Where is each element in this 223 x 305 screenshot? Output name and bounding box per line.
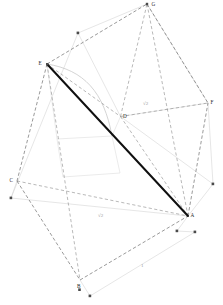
edge-D-G [121, 4, 148, 117]
edge-A-F [188, 103, 208, 216]
diagram-canvas: G E F D C A B √2 √2 1 [0, 0, 223, 305]
vertex-label-F: F [211, 100, 214, 105]
dimension-label-sqrt2-upper: √2 [143, 101, 148, 106]
vertex-label-C: C [10, 178, 13, 183]
dimension-label-sqrt2-lower: √2 [98, 213, 103, 218]
marker-left-lower [10, 197, 13, 200]
solid-edges [17, 4, 208, 280]
edge-E-C [17, 64, 47, 181]
marker-a-lower [176, 230, 179, 233]
construction-lines [11, 4, 213, 296]
point-markers [10, 3, 215, 297]
dashed-edges [17, 4, 208, 280]
edge-D-A [121, 117, 189, 217]
edge-C-B [17, 181, 80, 280]
vertex-label-E: E [39, 61, 42, 66]
marker-right-upper [212, 183, 215, 186]
marker-b-lower [78, 288, 81, 291]
vertex-label-G: G [152, 2, 156, 7]
marker-bottom [89, 295, 92, 298]
edge-E-D [47, 64, 121, 117]
edge-C-A [17, 181, 188, 216]
space-diagonal-EA [47, 64, 188, 216]
edge-E-B [47, 64, 80, 280]
vertex-label-D: D [123, 114, 127, 119]
marker-e [46, 63, 48, 65]
dimension-label-one: 1 [141, 263, 144, 268]
edge-E-G [47, 4, 147, 64]
vertex-label-B: B [77, 284, 80, 289]
vertex-label-A: A [191, 213, 195, 218]
marker-top-left [77, 32, 80, 35]
edge-G-A [147, 4, 188, 216]
marker-g [146, 3, 148, 5]
marker-a-right [194, 231, 197, 234]
geometry-svg [0, 0, 223, 305]
inner-construction-quad [47, 64, 121, 177]
edge-B-A [80, 216, 188, 280]
